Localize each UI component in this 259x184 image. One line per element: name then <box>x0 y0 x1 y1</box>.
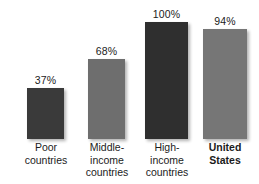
axis-label-line: States <box>189 154 259 167</box>
bar-value-united-states: 94% <box>203 15 247 27</box>
bar-group-high-income-countries: 100% <box>145 0 188 139</box>
axis-label-united-states: United States <box>189 141 259 166</box>
bar-group-poor-countries: 37% <box>27 0 64 139</box>
bar-value-poor-countries: 37% <box>27 74 64 86</box>
bar-poor-countries <box>27 88 64 139</box>
bar-middle-income-countries <box>88 59 125 139</box>
bar-united-states <box>203 29 247 139</box>
bar-value-middle-income-countries: 68% <box>88 45 125 57</box>
bar-group-middle-income-countries: 68% <box>88 0 125 139</box>
axis-label-line: countries <box>131 166 203 179</box>
bar-value-high-income-countries: 100% <box>145 8 188 20</box>
chart-plot-area: 37% 68% 100% 94% <box>0 0 259 139</box>
bar-chart: 37% 68% 100% 94% Poor countries Middle- … <box>0 0 259 184</box>
bar-high-income-countries <box>145 22 188 139</box>
axis-label-line: United <box>189 141 259 154</box>
bar-group-united-states: 94% <box>203 0 247 139</box>
category-axis-labels: Poor countries Middle- income countries … <box>0 141 259 184</box>
